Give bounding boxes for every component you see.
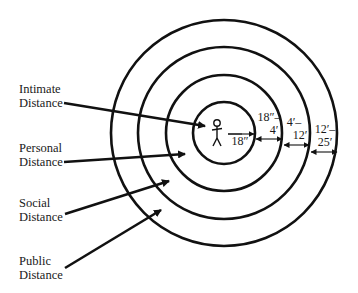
personal-distance-label: Personal Distance xyxy=(19,141,63,169)
label-line: Intimate xyxy=(19,82,63,96)
personal-arrow xyxy=(64,154,185,162)
intimate-distance-label: Intimate Distance xyxy=(19,82,63,110)
public-arrow xyxy=(65,210,161,268)
label-line: Social xyxy=(19,196,63,210)
label-line: Distance xyxy=(19,96,63,110)
label-line: Distance xyxy=(19,268,63,282)
stick-person-icon xyxy=(212,120,222,146)
personal-dimension-label: 18″– 4′ xyxy=(253,111,285,137)
public-distance-label: Public Distance xyxy=(19,254,63,282)
public-dimension-label: 12′– 25′ xyxy=(309,123,341,149)
intimate-arrow xyxy=(64,103,205,126)
dimension-text: 12′ xyxy=(282,129,312,142)
social-dimension-label: 4′– 12′ xyxy=(282,116,312,142)
dimension-text: 18″ xyxy=(226,135,254,148)
label-line: Public xyxy=(19,254,63,268)
dimension-text: 18″– xyxy=(253,111,285,124)
label-line: Distance xyxy=(19,210,63,224)
intimate-dimension-label: 18″ xyxy=(226,135,254,148)
social-distance-label: Social Distance xyxy=(19,196,63,224)
dimension-text: 4′ xyxy=(253,124,285,137)
label-line: Distance xyxy=(19,155,63,169)
intimate-distance-ring xyxy=(193,102,255,164)
label-line: Personal xyxy=(19,141,63,155)
social-arrow xyxy=(65,181,169,214)
dimension-text: 25′ xyxy=(309,136,341,149)
